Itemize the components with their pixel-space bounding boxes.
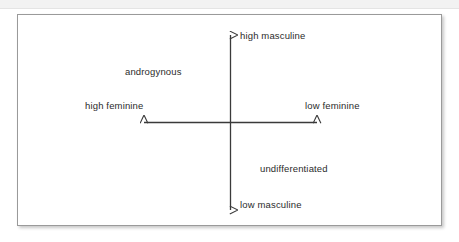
axis-label-high-feminine: high feminine <box>85 100 143 111</box>
quadrant-label-androgynous: androgynous <box>125 66 182 77</box>
quadrant-label-undifferentiated: undifferentiated <box>260 163 328 174</box>
page-scan-band-edge <box>0 8 459 9</box>
axis-label-low-masculine: low masculine <box>240 199 302 210</box>
axis-label-low-feminine: low feminine <box>305 100 360 111</box>
axis-label-high-masculine: high masculine <box>240 30 305 41</box>
figure-border-box <box>17 14 442 226</box>
figure-canvas: high masculine androgynous high feminine… <box>0 0 459 242</box>
